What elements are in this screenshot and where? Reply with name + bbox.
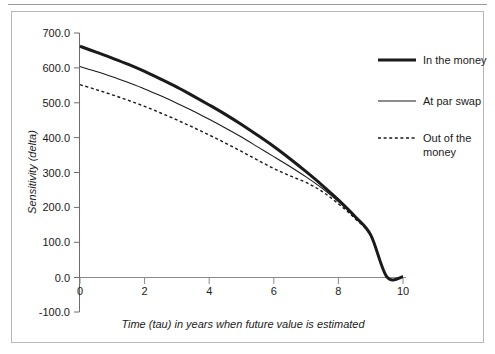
y-tick-label-700: 700.0 <box>42 27 70 39</box>
x-axis-title: Time (tau) in years when future value is… <box>121 318 365 330</box>
x-tick-label-4: 4 <box>206 285 212 297</box>
series-line-out-of-the-money <box>80 85 403 280</box>
x-tick-label-2: 2 <box>142 285 148 297</box>
y-axis-title: Sensitivity (delta) <box>26 130 38 214</box>
y-tick-label-minus100: -100.0 <box>39 306 70 318</box>
figure-container: 700.0 600.0 500.0 400.0 300.0 200.0 100.… <box>0 0 495 354</box>
y-axis-ticks <box>74 33 80 312</box>
y-tick-label-600: 600.0 <box>42 62 70 74</box>
legend-label-out-of-the-money-line2: money <box>423 146 457 158</box>
x-axis-ticks <box>80 278 403 285</box>
series-line-in-the-money <box>80 46 403 280</box>
y-tick-label-400: 400.0 <box>42 132 70 144</box>
y-tick-label-0: 0.0 <box>55 272 70 284</box>
series-group <box>80 46 403 280</box>
x-tick-label-8: 8 <box>335 285 341 297</box>
x-tick-label-6: 6 <box>271 285 277 297</box>
y-tick-label-300: 300.0 <box>42 167 70 179</box>
y-tick-label-100: 100.0 <box>42 236 70 248</box>
y-tick-label-200: 200.0 <box>42 201 70 213</box>
legend-label-in-the-money: In the money <box>423 54 487 66</box>
y-tick-label-500: 500.0 <box>42 97 70 109</box>
legend-label-out-of-the-money-line1: Out of the <box>423 132 471 144</box>
legend-label-at-par-swap: At par swap <box>423 95 481 107</box>
chart-legend: In the money At par swap Out of the mone… <box>378 54 487 158</box>
chart-svg: 700.0 600.0 500.0 400.0 300.0 200.0 100.… <box>0 0 495 354</box>
x-tick-label-10: 10 <box>397 285 409 297</box>
series-line-at-par-swap <box>80 67 403 280</box>
x-tick-label-0: 0 <box>77 285 83 297</box>
